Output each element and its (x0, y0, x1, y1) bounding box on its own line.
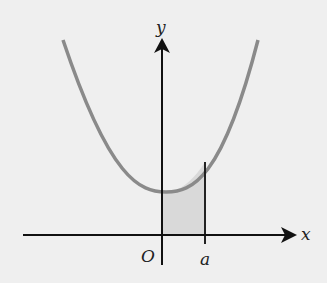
origin-label: O (141, 246, 155, 266)
y-axis-label: y (155, 17, 166, 37)
shaded-area (162, 162, 205, 235)
parabola-curve (63, 40, 258, 192)
x-axis-label: x (301, 224, 311, 244)
a-label: a (200, 249, 210, 269)
graph-canvas: x y O a (0, 0, 327, 283)
